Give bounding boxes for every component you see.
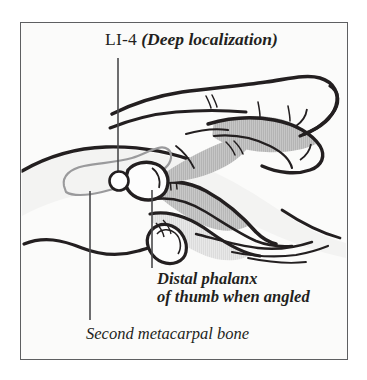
- label-distal-phalanx-line2: of thumb when angled: [157, 288, 310, 306]
- figure-root: LI-4 (Deep localization) Distal phalanxo…: [0, 0, 367, 380]
- label-point-code: LI-4: [105, 29, 137, 49]
- lower-little-finger: [248, 258, 306, 263]
- li4-point-marker: [110, 172, 129, 191]
- distal-phalanx-of-thumb: [125, 162, 168, 200]
- label-second-metacarpal: Second metacarpal bone: [86, 325, 249, 343]
- label-distal-phalanx: Distal phalanxof thumb when angled: [157, 270, 310, 306]
- label-distal-phalanx-line1: Distal phalanx: [157, 270, 310, 288]
- label-point-title: LI-4 (Deep localization): [105, 30, 278, 49]
- hand-illustration: [0, 0, 367, 380]
- label-point-qualifier: (Deep localization): [141, 29, 278, 49]
- upper-index-fingernail: [296, 109, 307, 126]
